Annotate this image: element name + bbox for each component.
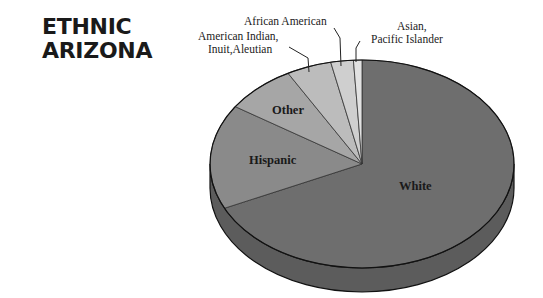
label-am-indian-line2: Inuit,Aleutian	[208, 43, 272, 56]
label-hispanic: Hispanic	[249, 153, 297, 167]
pie-chart: African American American Indian, Inuit,…	[0, 0, 543, 298]
label-am-indian-line1: American Indian,	[198, 30, 279, 43]
label-asian-line2: Pacific Islander	[371, 33, 443, 45]
leader-asian	[356, 41, 360, 62]
label-african-american: African American	[244, 15, 327, 27]
leader-african-american	[334, 28, 341, 66]
label-other: Other	[272, 103, 304, 117]
label-asian-line1: Asian,	[397, 20, 427, 33]
label-white: White	[399, 179, 432, 193]
